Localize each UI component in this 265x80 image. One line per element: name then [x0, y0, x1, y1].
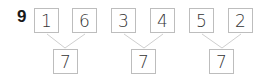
- part-box-2-right: 4: [150, 8, 175, 33]
- whole-box-2: 7: [131, 49, 156, 74]
- part-box-1-right: 6: [72, 8, 97, 33]
- part-box-2-left: 3: [111, 8, 136, 33]
- whole-box-3: 7: [209, 49, 234, 74]
- part-box-1-left: 1: [34, 8, 59, 33]
- whole-box-1: 7: [53, 49, 78, 74]
- part-box-3-left: 5: [189, 8, 214, 33]
- part-box-3-right: 2: [228, 8, 253, 33]
